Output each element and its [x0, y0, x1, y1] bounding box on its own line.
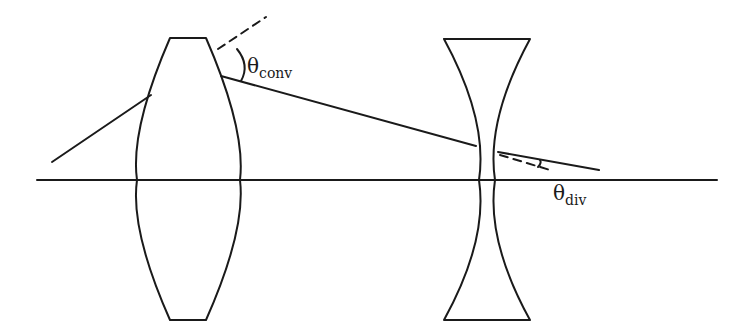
- theta-div-label: θdiv: [553, 181, 586, 208]
- lens-diagram: θconv θdiv: [0, 0, 742, 335]
- angle-arc-conv: [237, 49, 245, 81]
- normal-line-conv: [218, 17, 266, 49]
- theta-conv-label: θconv: [247, 54, 292, 81]
- exit-ray: [498, 152, 599, 170]
- angle-arc-div: [538, 160, 541, 167]
- refracted-ray: [221, 76, 476, 146]
